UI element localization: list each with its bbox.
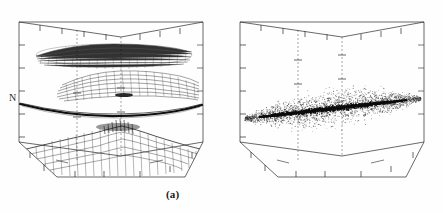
figure-canvas: N (a) xyxy=(0,0,443,213)
series-scatter-cloud-b xyxy=(245,85,422,132)
panel-b-plot xyxy=(221,0,443,213)
top-edge-ticks-a xyxy=(40,25,180,40)
right-axis-ticks-b xyxy=(418,45,424,114)
panel-a-caption: (a) xyxy=(166,188,179,200)
top-edge-ticks-b xyxy=(261,25,401,40)
panel-a-y-axis-label: N xyxy=(9,92,16,103)
panel-a: N (a) xyxy=(0,0,222,213)
right-axis-ticks-a xyxy=(197,45,203,114)
series-thin-dark-sheet xyxy=(20,103,202,118)
floor-ticks-a xyxy=(30,152,192,177)
series-upper-lens-cloud xyxy=(36,44,192,69)
floor-ticks-b xyxy=(251,152,413,177)
interior-guide-ticks-b xyxy=(294,55,346,84)
panel-b: N x (b) xyxy=(221,0,443,213)
series-rough-terrain-surface xyxy=(22,119,200,176)
series-warped-mesh-sheet xyxy=(57,71,199,101)
left-axis-ticks-b xyxy=(240,45,246,137)
panel-a-plot xyxy=(0,0,222,213)
left-axis-ticks-a xyxy=(19,45,25,137)
